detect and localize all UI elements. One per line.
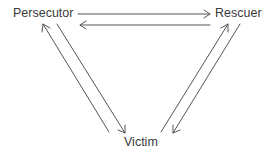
arrow-victim-to-persecutor xyxy=(42,24,109,132)
node-persecutor: Persecutor xyxy=(13,7,73,20)
node-rescuer: Rescuer xyxy=(215,7,262,20)
drama-triangle-diagram: Persecutor Rescuer Victim xyxy=(0,0,268,157)
arrow-persecutor-to-victim xyxy=(57,24,125,133)
arrow-rescuer-to-victim xyxy=(173,24,240,133)
arrow-persecutor-to-rescuer xyxy=(78,10,210,18)
node-victim: Victim xyxy=(124,136,158,149)
arrow-victim-to-rescuer xyxy=(161,24,228,132)
arrows-layer xyxy=(0,0,268,157)
arrow-rescuer-to-persecutor xyxy=(80,21,210,29)
